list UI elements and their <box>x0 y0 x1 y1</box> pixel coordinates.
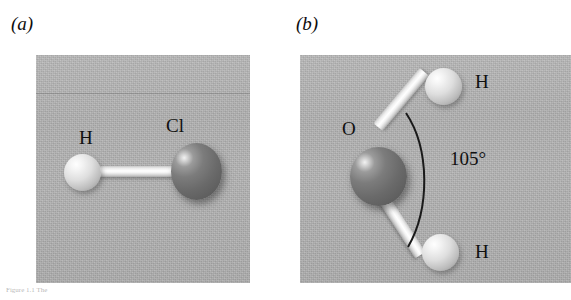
atom-label-hydrogen-b-upper: H <box>475 71 489 93</box>
atom-chlorine-a <box>171 143 222 200</box>
atom-label-hydrogen-a: H <box>79 127 93 149</box>
panel-label-b: (b) <box>296 13 318 35</box>
panel-a-hydrogen-chloride: H Cl <box>36 55 250 283</box>
molecular-models-figure: (a) H Cl (b) O H H 105° Figure 1.1 The <box>0 0 571 300</box>
atom-label-hydrogen-b-lower: H <box>475 241 489 263</box>
atom-hydrogen-a <box>64 154 101 191</box>
atom-hydrogen-b-upper <box>425 68 462 105</box>
atom-oxygen-b <box>350 147 407 206</box>
atom-hydrogen-b-lower <box>422 234 459 271</box>
atom-label-oxygen-b: O <box>342 118 356 140</box>
panel-label-a: (a) <box>11 13 33 35</box>
panel-b-water: O H H 105° <box>300 55 571 283</box>
atom-label-chlorine-a: Cl <box>166 115 184 137</box>
figure-caption-remnant: Figure 1.1 The <box>6 287 214 293</box>
bond-angle-label: 105° <box>450 148 486 170</box>
